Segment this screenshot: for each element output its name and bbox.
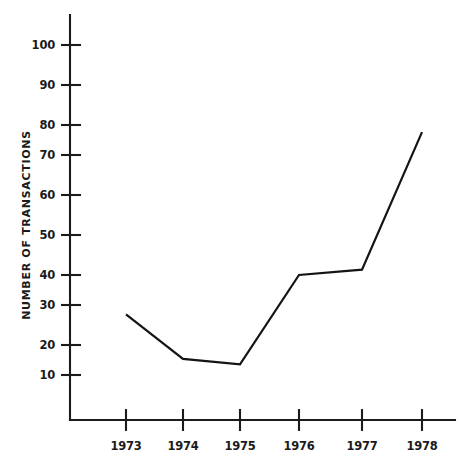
y-tick-label: 40 (39, 268, 55, 282)
y-tick-label: 60 (39, 188, 55, 202)
x-tick-label: 1973 (110, 439, 141, 453)
line-chart-figure: 100 90 80 70 60 50 40 30 20 10 NUMBER OF… (0, 0, 461, 462)
y-tick-label: 90 (39, 78, 55, 92)
x-tick-label: 1975 (224, 439, 255, 453)
y-tick-label: 30 (39, 298, 55, 312)
y-tick-label: 50 (39, 228, 55, 242)
x-tick-label: 1976 (283, 439, 314, 453)
x-tick-label: 1974 (167, 439, 198, 453)
chart-canvas: 100 90 80 70 60 50 40 30 20 10 NUMBER OF… (0, 0, 461, 462)
y-tick-label: 10 (39, 368, 55, 382)
y-tick-label: 80 (39, 118, 55, 132)
y-tick-label: 100 (32, 38, 56, 52)
y-axis-label: NUMBER OF TRANSACTIONS (20, 130, 33, 320)
x-tick-label: 1977 (346, 439, 377, 453)
x-tick-label: 1978 (406, 439, 437, 453)
y-tick-label: 20 (39, 338, 55, 352)
y-tick-label: 70 (39, 148, 55, 162)
